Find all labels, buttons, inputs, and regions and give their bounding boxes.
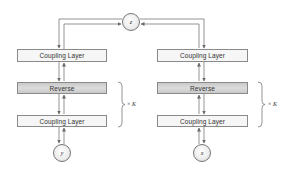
right-flow-up-line [141,24,199,48]
right-reverse-layer-label: Reverse [190,85,215,92]
left-repeat-brace [118,82,125,127]
left-reverse-layer-label: Reverse [50,85,75,92]
right-coupling-layer-bottom: Coupling Layer [157,115,248,127]
latent-node-label: z [130,19,132,25]
left-reverse-layer: Reverse [17,82,107,94]
right-reverse-layer: Reverse [157,82,248,94]
left-coupling-layer-top: Coupling Layer [17,49,107,62]
times-symbol: × [268,101,271,107]
left-flow-up-line [64,24,121,49]
left-coupling-layer-bottom-label: Coupling Layer [39,118,84,125]
left-coupling-layer-bottom: Coupling Layer [17,115,107,127]
right-coupling-layer-bottom-label: Coupling Layer [180,118,225,125]
right-flow-down-line [140,19,204,48]
right-coupling-layer-top-label: Coupling Layer [180,52,225,59]
right-repeat-label: × K [268,101,277,107]
left-coupling-layer-top-label: Coupling Layer [39,52,84,59]
repeat-count: K [273,101,277,107]
times-symbol: × [127,101,130,107]
latent-node-z: z [122,13,140,31]
right-coupling-layer-top: Coupling Layer [157,49,248,62]
right-repeat-brace [258,82,265,127]
left-flow-down-line [59,19,122,48]
left-repeat-label: × K [127,101,136,107]
repeat-count: K [132,101,136,107]
input-node-x-label: x [201,150,204,156]
input-node-x: x [193,144,211,162]
input-node-y: y [53,144,71,162]
input-node-y-label: y [61,150,64,156]
